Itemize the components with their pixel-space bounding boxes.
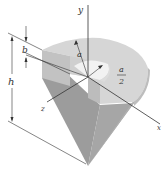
half-a-numerator: a [119,65,124,74]
y-axis-label: y [77,5,84,15]
h-label: h [8,76,14,87]
half-a-denominator: 2 [118,77,124,86]
z-axis-label: z [40,105,45,113]
dim-h-arrow-bottom [11,117,14,122]
b-label: b [22,45,28,55]
dim-h-arrow-top [11,36,14,41]
dim-b-arrow-bottom [25,57,28,62]
cone-diagram: y x z h b a a 2 [0,0,164,172]
x-axis-label: x [157,124,161,132]
a-label: a [77,50,82,59]
